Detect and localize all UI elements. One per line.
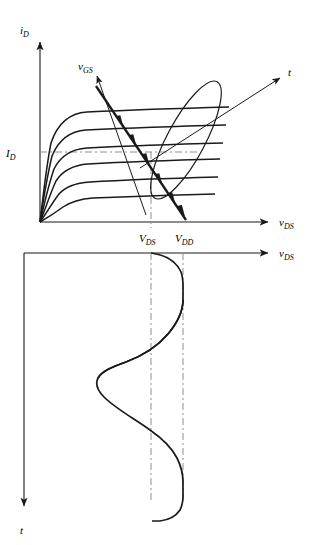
bottom-t-axis-label: t [20, 524, 24, 536]
top-y-axis-label: iD [20, 24, 29, 39]
drain-characteristic-curves [40, 107, 229, 222]
output-waveform-cycle2 [98, 300, 183, 378]
output-waveform [97, 253, 183, 521]
vgs-axis-label: vGS [78, 60, 93, 75]
figure-canvas: iD ID vDS vGS t VDS VDD [0, 0, 323, 545]
technical-diagram-svg: iD ID vDS vGS t VDS VDD [0, 0, 323, 545]
top-x-axis-label: vDS [279, 216, 294, 231]
top-time-axis-label: t [288, 66, 292, 78]
top-plot-group: iD ID vDS vGS t VDS VDD [5, 24, 294, 247]
drain-curve-1 [40, 194, 215, 222]
id-bias-label: ID [5, 147, 16, 162]
bottom-x-axis-label: vDS [279, 247, 294, 262]
top-time-axis-arrow [140, 78, 280, 168]
signal-locus-ellipse [138, 73, 234, 207]
bottom-plot-group: vDS t [20, 247, 294, 536]
vdd-tick-label: VDD [175, 232, 194, 247]
drain-curve-4 [40, 143, 223, 222]
vds-tick-label: VDS [139, 232, 156, 247]
drain-curve-2 [40, 177, 218, 222]
